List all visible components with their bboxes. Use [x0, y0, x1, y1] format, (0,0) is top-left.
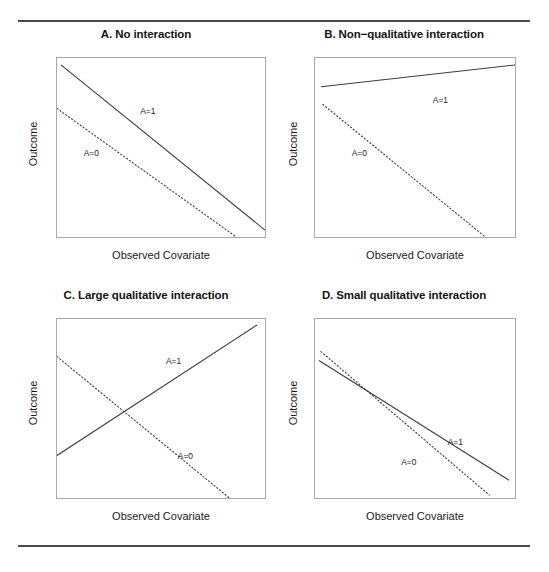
panel-c-lines: A=1 A=0	[57, 319, 265, 498]
panel-d: D. Small qualitative interaction Outcome…	[276, 289, 532, 541]
panel-c-annotation-a1: A=1	[166, 356, 182, 366]
panel-a-title: A. No interaction	[18, 28, 274, 40]
panel-d-plot-area: A=1 A=0	[314, 318, 516, 499]
bottom-divider-rule	[18, 545, 530, 547]
panel-d-annotation-a0: A=0	[401, 457, 417, 467]
panel-d-series-a0-dotted-line	[321, 352, 489, 495]
top-divider-rule	[18, 20, 530, 22]
panel-a-annotation-a1: A=1	[140, 106, 156, 116]
panel-c-y-axis-label: Outcome	[27, 367, 39, 439]
panel-b-x-axis-label: Observed Covariate	[314, 249, 516, 261]
panel-c: C. Large qualitative interaction Outcome…	[18, 289, 274, 541]
panel-b-annotation-a1: A=1	[433, 95, 449, 105]
panel-b-annotation-a0: A=0	[352, 148, 368, 158]
panel-b-series-a0-dotted-line	[323, 104, 485, 237]
panel-a-lines: A=1 A=0	[57, 58, 265, 237]
panel-b-plot-area: A=1 A=0	[314, 57, 516, 238]
panel-c-series-a1-solid-line	[57, 325, 257, 456]
panel-a-series-a0-dotted-line	[57, 108, 236, 237]
panel-c-annotation-a0: A=0	[178, 451, 194, 461]
panel-b-title: B. Non−qualitative interaction	[276, 28, 532, 40]
panel-c-plot-area: A=1 A=0	[56, 318, 266, 499]
panel-a-x-axis-label: Observed Covariate	[56, 249, 266, 261]
panel-a-plot-area: A=1 A=0	[56, 57, 266, 238]
panel-c-series-a0-dotted-line	[57, 357, 229, 498]
panel-d-y-axis-label: Outcome	[287, 367, 299, 439]
panel-b-lines: A=1 A=0	[315, 58, 515, 237]
panel-b-series-a1-solid-line	[321, 65, 515, 87]
panel-d-annotation-a1: A=1	[448, 437, 464, 447]
panel-b-y-axis-label: Outcome	[287, 108, 299, 180]
panel-a-annotation-a0: A=0	[84, 148, 100, 158]
panel-c-title: C. Large qualitative interaction	[18, 289, 274, 301]
panel-a-y-axis-label: Outcome	[27, 108, 39, 180]
panel-d-lines: A=1 A=0	[315, 319, 515, 498]
panel-b: B. Non−qualitative interaction Outcome A…	[276, 28, 532, 280]
panel-d-title: D. Small qualitative interaction	[276, 289, 532, 301]
panel-c-x-axis-label: Observed Covariate	[56, 510, 266, 522]
panel-d-x-axis-label: Observed Covariate	[314, 510, 516, 522]
panel-a: A. No interaction Outcome A=1 A=0 Observ…	[18, 28, 274, 280]
figure-canvas: A. No interaction Outcome A=1 A=0 Observ…	[0, 0, 549, 572]
